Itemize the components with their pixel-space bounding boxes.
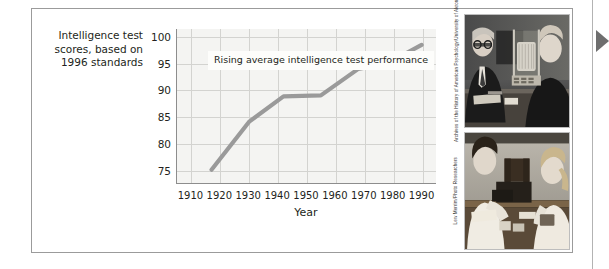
x-tick-label: 1950 — [293, 190, 318, 201]
photo-block: Archives of the History of American Psyc… — [450, 14, 570, 128]
x-tick-label: 1920 — [207, 190, 232, 201]
photo-column: Archives of the History of American Psyc… — [450, 14, 570, 250]
photo-credit: Lew Merrim/Photo Researchers — [450, 132, 462, 250]
photo-image-historical-testing — [464, 14, 570, 128]
x-tick-label: 1910 — [178, 190, 203, 201]
right-arrow-icon — [596, 30, 609, 52]
x-tick-label: 1990 — [409, 190, 434, 201]
x-tick-label: 1970 — [351, 190, 376, 201]
y-tick-label: 75 — [158, 165, 171, 177]
photo-block: Lew Merrim/Photo Researchers — [450, 132, 570, 250]
photo-image-modern-testing — [464, 132, 570, 250]
x-tick-label: 1960 — [322, 190, 347, 201]
line-chart: 7580859095100 19101920193019401950196019… — [176, 29, 436, 184]
y-tick-label: 100 — [151, 31, 171, 43]
photo-credit-text: Lew Merrim/Photo Researchers — [453, 157, 458, 224]
x-tick-label: 1980 — [380, 190, 405, 201]
y-tick-label: 90 — [158, 84, 171, 96]
y-tick-label: 80 — [158, 138, 171, 150]
chart-annotation: Rising average intelligence test perform… — [208, 51, 434, 70]
y-tick-label: 95 — [158, 58, 171, 70]
photo-credit-text: Archives of the History of American Psyc… — [453, 0, 458, 142]
figure-frame: Intelligence test scores, based on 1996 … — [31, 8, 573, 253]
photo-credit: Archives of the History of American Psyc… — [450, 14, 462, 128]
x-axis-label: Year — [176, 206, 436, 219]
y-tick-label: 85 — [158, 111, 171, 123]
y-axis-caption: Intelligence test scores, based on 1996 … — [37, 29, 143, 70]
x-tick-label: 1940 — [264, 190, 289, 201]
x-tick-label: 1930 — [235, 190, 260, 201]
page-right-rule — [592, 0, 593, 269]
